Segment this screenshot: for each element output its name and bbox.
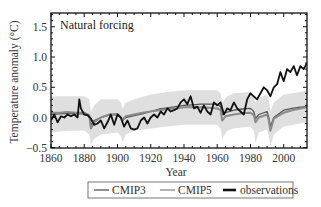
y-tick-label: 0.0	[33, 112, 48, 124]
forcing-annotation: Natural forcing	[60, 18, 134, 32]
x-tick-label: 2000	[272, 152, 295, 164]
x-tick-label: 1860	[40, 152, 63, 164]
x-tick-label: 1880	[73, 152, 96, 164]
y-tick-label: −0.5	[26, 142, 47, 154]
legend-label-cmip5: CMIP5	[178, 184, 212, 196]
x-tick-label: 1900	[106, 152, 129, 164]
x-tick-label: 1960	[206, 152, 229, 164]
x-tick-label: 1940	[172, 152, 195, 164]
x-tick-label: 1980	[239, 152, 262, 164]
axis-tick-labels: 18601880190019201940196019802000−0.50.00…	[26, 21, 295, 164]
y-tick-label: 1.5	[33, 21, 48, 33]
x-axis-title: Year	[165, 166, 186, 178]
y-tick-label: 1.0	[33, 51, 48, 63]
x-tick-label: 1920	[139, 152, 162, 164]
y-tick-label: 0.5	[33, 81, 48, 93]
temperature-anomaly-chart: 18601880190019201940196019802000−0.50.00…	[0, 0, 321, 207]
y-axis-title: Temperature anomaly (°C)	[8, 20, 21, 143]
legend-label-observations: observations	[240, 184, 299, 196]
legend: CMIP3 CMIP5 observations	[88, 182, 299, 198]
legend-label-cmip3: CMIP3	[112, 184, 146, 196]
